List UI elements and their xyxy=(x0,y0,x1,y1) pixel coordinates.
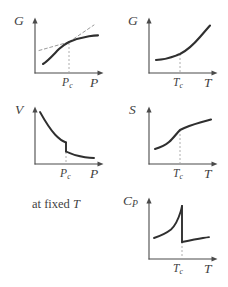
x-axis-arrow xyxy=(212,161,218,166)
panel-s-vs-t-tick-tc: Tc xyxy=(173,168,183,181)
x-axis-arrow xyxy=(212,70,218,75)
panel-g-vs-p-ylabel: G xyxy=(14,14,24,28)
x-axis-arrow xyxy=(98,70,104,75)
caption-text: at fixed xyxy=(32,197,70,211)
curve-s-of-t xyxy=(155,120,211,149)
panel-s-vs-t-ylabel: S xyxy=(129,103,136,117)
tangent-low-side xyxy=(39,42,69,51)
panel-g-vs-p xyxy=(28,16,106,76)
panel-g-vs-t-xlabel: T xyxy=(204,76,212,90)
y-axis-arrow xyxy=(146,18,151,24)
y-axis-arrow xyxy=(32,18,37,24)
curve-cp-below-tc xyxy=(154,206,182,238)
curve-v-above-pc xyxy=(66,152,94,159)
panel-v-vs-p-xlabel: P xyxy=(90,167,98,181)
x-axis-arrow xyxy=(212,256,218,261)
panel-g-vs-p-xlabel: P xyxy=(90,76,98,90)
curve-g-of-t xyxy=(156,26,210,61)
panel-cp-vs-t-ylabel: CP xyxy=(123,194,138,208)
panel-g-vs-t-ylabel: G xyxy=(128,14,138,28)
y-axis-arrow xyxy=(146,107,151,113)
x-axis-arrow xyxy=(98,161,104,166)
y-axis-arrow xyxy=(32,107,37,113)
panel-v-vs-p xyxy=(28,105,106,167)
curve-g-of-p xyxy=(43,35,98,64)
panel-g-vs-p-tick-pc: Pc xyxy=(62,77,73,90)
curve-cp-above-tc xyxy=(182,237,209,242)
panel-s-vs-t xyxy=(142,105,220,167)
y-axis-arrow xyxy=(146,198,151,204)
panel-g-vs-t-tick-tc: Tc xyxy=(173,77,183,90)
panel-cp-vs-t-tick-tc: Tc xyxy=(173,263,183,276)
caption-symbol: T xyxy=(73,197,80,211)
panel-cp-vs-t xyxy=(142,196,220,262)
panel-v-vs-p-ylabel: V xyxy=(15,103,23,117)
panel-v-vs-p-tick-pc: Pc xyxy=(60,168,71,181)
curve-v-below-pc xyxy=(40,112,66,143)
figure-caption: at fixed T xyxy=(32,198,80,211)
panel-g-vs-t xyxy=(142,16,220,76)
panel-cp-vs-t-xlabel: T xyxy=(204,262,212,276)
thermodynamics-figure: G P Pc G T Tc V P xyxy=(0,0,228,287)
panel-s-vs-t-xlabel: T xyxy=(204,167,212,181)
